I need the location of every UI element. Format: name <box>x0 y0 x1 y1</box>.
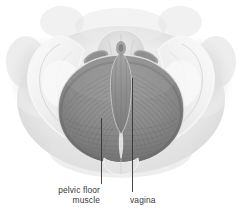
urethral-opening <box>116 41 126 55</box>
pelvic-floor-anatomy-figure: pelvic floor muscle vagina <box>0 0 242 224</box>
label-vagina: vagina <box>130 195 156 205</box>
label-pelvic-floor-muscle: pelvic floor muscle <box>18 185 100 205</box>
